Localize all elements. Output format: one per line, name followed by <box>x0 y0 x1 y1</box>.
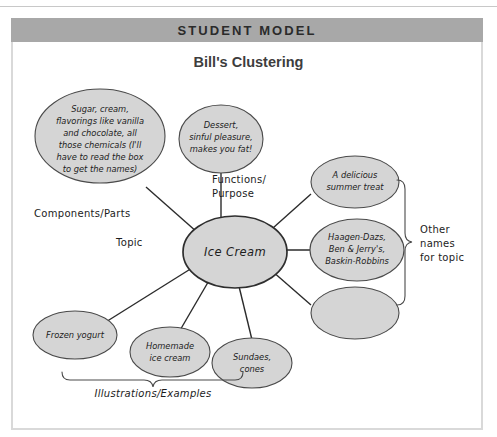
annotation-functions-line-1: Functions/ <box>212 174 266 185</box>
node-sundaes-line-2: cones <box>240 364 265 374</box>
annotation-topic: Topic <box>115 237 143 248</box>
node-homemade-line-1: Homemade <box>146 341 194 351</box>
node-sundaes-line-1: Sundaes, <box>233 352 271 362</box>
node-components-line-4: those chemicals (I'll <box>59 140 142 150</box>
node-summer-treat[interactable]: A delicious summer treat <box>311 156 399 208</box>
node-summer-treat-line-1: A delicious <box>332 170 378 180</box>
node-functions[interactable]: Dessert, sinful pleasure, makes you fat! <box>179 105 263 173</box>
student-model-header-band: STUDENT MODEL <box>11 18 483 42</box>
header-band-title: STUDENT MODEL <box>177 23 316 38</box>
node-center-topic[interactable]: Ice Cream <box>183 216 287 288</box>
node-frozen-yogurt[interactable]: Frozen yogurt <box>33 311 117 359</box>
top-divider-rule <box>0 6 497 7</box>
node-frozen-yogurt-label: Frozen yogurt <box>46 330 105 340</box>
node-components-line-2: flavorings like vanilla <box>56 116 144 126</box>
node-components-line-6: to get the names) <box>63 164 138 174</box>
node-components[interactable]: Sugar, cream, flavorings like vanilla an… <box>35 89 165 183</box>
node-blank-ellipse[interactable] <box>311 287 399 339</box>
annotation-functions-line-2: Purpose <box>212 188 254 199</box>
node-summer-treat-line-2: summer treat <box>326 182 384 192</box>
node-functions-line-3: makes you fat! <box>190 144 253 154</box>
node-homemade-line-2: ice cream <box>150 353 191 363</box>
node-blank[interactable] <box>311 287 399 339</box>
annotation-components-parts: Components/Parts <box>34 208 130 219</box>
clustering-diagram: Sugar, cream, flavorings like vanilla an… <box>11 42 483 430</box>
annotation-other-names-line-2: names <box>420 238 455 249</box>
node-functions-line-1: Dessert, <box>204 120 239 130</box>
node-brands[interactable]: Haagen-Dazs, Ben & Jerry's, Baskin-Robbi… <box>310 219 404 281</box>
node-brands-line-1: Haagen-Dazs, <box>328 232 386 242</box>
annotation-other-names-line-3: for topic <box>420 252 464 263</box>
node-homemade[interactable]: Homemade ice cream <box>130 327 210 377</box>
node-center-label: Ice Cream <box>204 245 266 259</box>
connector-center-to-frozen-yogurt <box>101 263 200 325</box>
node-components-line-5: have to read the box <box>57 152 144 162</box>
node-brands-line-2: Ben & Jerry's, <box>329 244 385 254</box>
annotation-other-names-line-1: Other <box>420 224 450 235</box>
node-components-line-3: and chocolate, all <box>63 128 137 138</box>
node-homemade-ellipse[interactable] <box>130 327 210 377</box>
node-brands-line-3: Baskin-Robbins <box>325 256 389 266</box>
node-components-line-1: Sugar, cream, <box>71 104 129 114</box>
annotation-illustrations-examples: Illustrations/Examples <box>94 388 211 399</box>
node-functions-line-2: sinful pleasure, <box>189 132 253 142</box>
